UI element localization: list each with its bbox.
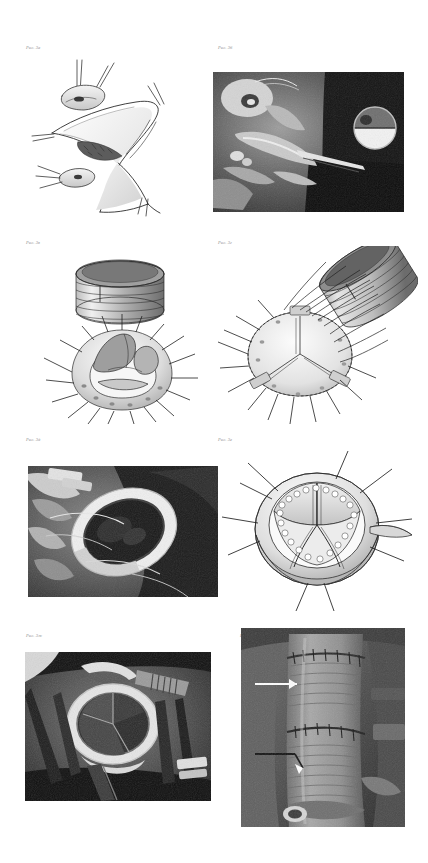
panel-d-caption: Рис. 3г	[218, 241, 232, 245]
panel-e-photograph	[28, 466, 218, 597]
panel-g-photograph	[241, 628, 405, 827]
panel-a-caption: Рис. 3а	[26, 46, 40, 50]
panel-c-caption: Рис. 3в	[26, 241, 40, 245]
panel-a-illustration	[30, 58, 210, 218]
panel-b-caption: Рис. 3б	[218, 46, 232, 50]
panel-f-photograph	[25, 652, 211, 801]
panel-e-caption: Рис. 3д	[26, 438, 41, 442]
panel-c-illustration	[38, 252, 208, 424]
panel-f-caption: Рис. 3ж	[26, 634, 42, 638]
panel-e2-caption: Рис. 3е	[218, 438, 232, 442]
panel-b-photograph	[213, 72, 404, 212]
panel-e2-illustration	[220, 443, 414, 613]
panel-d-illustration	[214, 246, 418, 428]
figure-plate-page: Рис. 3а	[0, 0, 428, 863]
